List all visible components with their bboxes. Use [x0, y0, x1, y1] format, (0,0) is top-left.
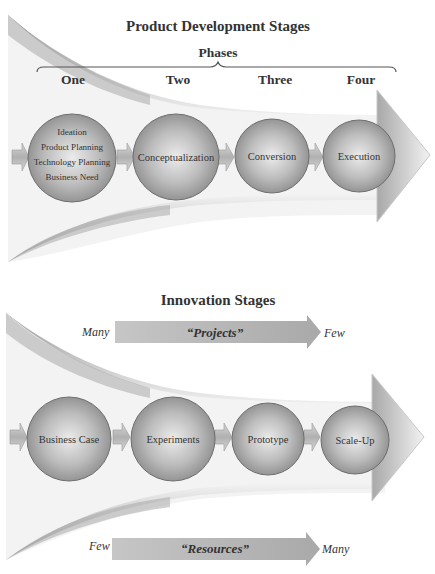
stage-circle-four: Execution: [323, 120, 395, 192]
phase-four-label: Four: [347, 72, 376, 87]
phases-label: Phases: [198, 45, 237, 60]
projects-arrow: Many “Projects” Few: [81, 315, 345, 349]
stage-label: Scale-Up: [335, 435, 374, 446]
diagram2-title: Innovation Stages: [161, 292, 276, 308]
phase-two-label: Two: [166, 72, 191, 87]
resources-bar-label: “Resources”: [181, 541, 249, 556]
projects-left-label: Many: [81, 325, 110, 339]
phase-three-label: Three: [258, 72, 292, 87]
resources-arrow: Few “Resources” Many: [88, 532, 350, 566]
stage-circle-one: Ideation Product Planning Technology Pla…: [28, 114, 116, 202]
stage-line: Technology Planning: [34, 157, 111, 167]
stage-line: Product Planning: [41, 142, 104, 152]
diagram1-title: Product Development Stages: [126, 18, 310, 34]
product-development-diagram: Product Development Stages Phases One Tw…: [8, 15, 430, 262]
stage-circle-experiments: Experiments: [131, 397, 215, 481]
diagram-canvas: Product Development Stages Phases One Tw…: [0, 0, 435, 574]
stage-label: Execution: [338, 151, 381, 162]
stage-line: Business Need: [45, 172, 99, 182]
stage-label: Experiments: [146, 434, 199, 445]
stage-circle-two: Conceptualization: [133, 114, 219, 200]
innovation-diagram: Innovation Stages Many “Projects” Few Bu…: [6, 292, 424, 566]
stage-label: Conversion: [248, 151, 297, 162]
stage-label: Conceptualization: [138, 152, 215, 163]
stage-label: Prototype: [248, 434, 289, 445]
projects-right-label: Few: [323, 326, 345, 340]
resources-left-label: Few: [88, 539, 110, 553]
stage-circle-three: Conversion: [235, 119, 309, 193]
stage-circle-business-case: Business Case: [27, 397, 111, 481]
stage-label: Business Case: [39, 434, 100, 445]
projects-bar-label: “Projects”: [187, 325, 244, 340]
phase-one-label: One: [61, 72, 85, 87]
stage-line: Ideation: [57, 127, 87, 137]
stage-circle-scale-up: Scale-Up: [321, 406, 389, 474]
stage-circle-prototype: Prototype: [232, 403, 304, 475]
resources-right-label: Many: [321, 542, 350, 556]
